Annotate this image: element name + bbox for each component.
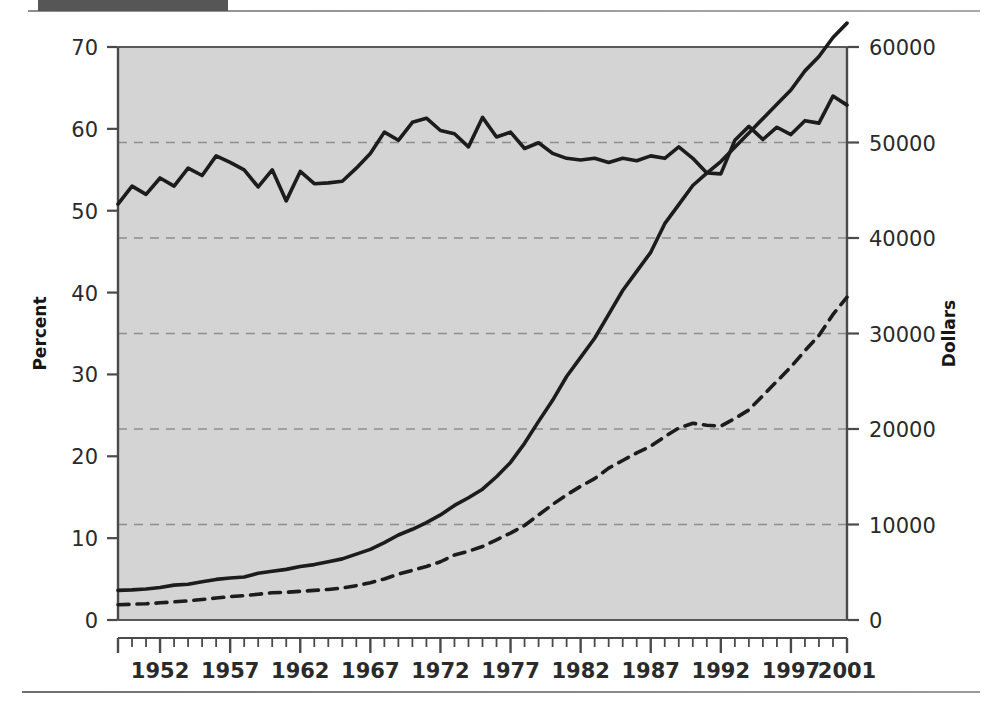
chart-plot-area: 0102030405060700100002000030000400005000… [0, 0, 993, 708]
tick-label-x-axis: 1997 [762, 659, 820, 683]
figure-container: 0102030405060700100002000030000400005000… [0, 0, 993, 708]
tick-label-left-axis: 70 [71, 36, 98, 60]
tick-label-x-axis: 1952 [131, 659, 189, 683]
y-axis-title: Percent [30, 296, 50, 370]
tick-label-right-axis: 40000 [869, 227, 936, 251]
tick-label-x-axis: 1987 [622, 659, 680, 683]
tick-label-x-axis: 1972 [411, 659, 469, 683]
y2-axis-title: Dollars [939, 300, 959, 367]
tick-label-right-axis: 30000 [869, 323, 936, 347]
tick-label-x-axis: 1957 [201, 659, 259, 683]
tick-label-x-axis: 1967 [341, 659, 399, 683]
tick-label-x-axis: 2001 [818, 659, 876, 683]
tick-label-x-axis: 1962 [271, 659, 329, 683]
tick-label-left-axis: 0 [85, 609, 98, 633]
tick-label-left-axis: 60 [71, 118, 98, 142]
tick-label-right-axis: 60000 [869, 36, 936, 60]
tick-label-right-axis: 50000 [869, 132, 936, 156]
tick-label-left-axis: 40 [71, 282, 98, 306]
tick-label-x-axis: 1977 [481, 659, 539, 683]
tick-label-left-axis: 50 [71, 200, 98, 224]
tick-label-x-axis: 1992 [692, 659, 750, 683]
tick-label-right-axis: 10000 [869, 514, 936, 538]
tick-label-left-axis: 20 [71, 445, 98, 469]
tick-label-right-axis: 20000 [869, 418, 936, 442]
tick-label-left-axis: 30 [71, 363, 98, 387]
plot-background [118, 47, 847, 620]
tick-label-left-axis: 10 [71, 527, 98, 551]
tick-label-right-axis: 0 [869, 609, 882, 633]
line-chart-svg: 0102030405060700100002000030000400005000… [0, 0, 993, 708]
tick-label-x-axis: 1982 [551, 659, 609, 683]
